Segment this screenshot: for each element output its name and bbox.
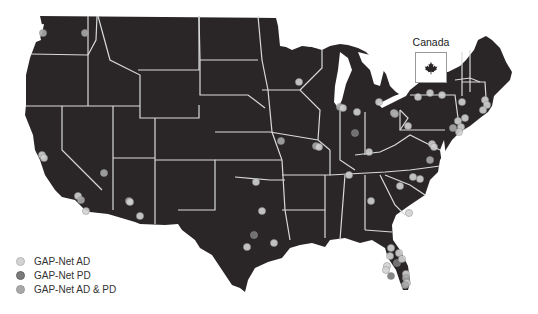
legend: GAP-Net AD GAP-Net PD GAP-Net AD & PD — [16, 254, 116, 296]
site-marker — [401, 281, 408, 288]
site-marker — [416, 175, 423, 182]
site-marker — [258, 207, 265, 214]
site-marker — [430, 143, 437, 150]
legend-label-pd: GAP-Net PD — [34, 270, 91, 281]
site-marker — [426, 156, 433, 163]
legend-item-ad-pd: GAP-Net AD & PD — [16, 282, 116, 296]
canada-flag-box — [415, 52, 447, 83]
site-marker — [39, 29, 46, 36]
site-marker — [339, 104, 346, 111]
site-marker — [77, 196, 84, 203]
site-marker — [405, 209, 412, 216]
site-marker — [386, 252, 393, 259]
site-marker — [398, 255, 405, 262]
legend-label-ad: GAP-Net AD — [34, 256, 90, 267]
site-marker — [40, 154, 47, 161]
site-marker — [375, 98, 382, 105]
site-marker — [414, 93, 421, 100]
maple-leaf-icon — [424, 61, 438, 75]
canada-inset: Canada — [406, 36, 456, 83]
site-marker — [81, 29, 88, 36]
site-marker — [455, 128, 462, 135]
site-marker — [345, 171, 352, 178]
site-marker — [100, 169, 107, 176]
site-marker — [353, 108, 360, 115]
legend-label-ad-pd: GAP-Net AD & PD — [34, 284, 116, 295]
site-marker — [382, 266, 389, 273]
site-marker — [295, 78, 302, 85]
site-marker — [387, 244, 394, 251]
site-marker — [351, 129, 358, 136]
site-marker — [387, 272, 394, 279]
legend-swatch-pd — [16, 271, 25, 280]
site-marker — [252, 178, 259, 185]
canada-label: Canada — [406, 36, 456, 48]
site-marker — [458, 98, 465, 105]
site-marker — [391, 110, 398, 117]
legend-swatch-ad — [16, 257, 25, 266]
site-marker — [315, 143, 322, 150]
site-marker — [396, 182, 403, 189]
site-marker — [277, 137, 284, 144]
legend-item-pd: GAP-Net PD — [16, 268, 116, 282]
site-marker — [365, 148, 372, 155]
legend-item-ad: GAP-Net AD — [16, 254, 116, 268]
legend-swatch-ad-pd — [16, 285, 25, 294]
site-marker — [82, 207, 89, 214]
site-marker — [250, 231, 257, 238]
site-marker — [479, 106, 486, 113]
site-marker — [270, 239, 277, 246]
site-marker — [438, 91, 445, 98]
site-marker — [367, 197, 374, 204]
site-marker — [126, 198, 133, 205]
site-marker — [461, 114, 468, 121]
site-marker — [409, 173, 416, 180]
site-marker — [243, 243, 250, 250]
site-marker — [136, 212, 143, 219]
site-marker — [404, 122, 411, 129]
site-marker — [426, 89, 433, 96]
